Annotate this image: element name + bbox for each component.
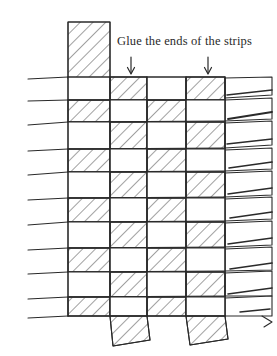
fringe-strip <box>225 271 272 296</box>
left-tail <box>28 297 68 299</box>
annotation-arrows <box>128 57 212 74</box>
left-tail <box>28 222 68 225</box>
fringe-strip <box>225 197 272 221</box>
left-tail <box>28 198 68 200</box>
left-tail <box>28 149 68 151</box>
fringe-strip <box>225 77 272 98</box>
fringe-strip <box>225 148 272 171</box>
left-tail <box>28 122 68 125</box>
right-fringe-group <box>225 77 272 327</box>
bottom-vertical-strips <box>110 316 228 346</box>
left-tails-group <box>28 77 68 318</box>
bottom-vertical-strip <box>110 316 150 346</box>
left-tail <box>28 272 68 274</box>
left-tail <box>28 100 68 101</box>
arrow-down-icon <box>128 57 135 74</box>
arrow-down-icon <box>205 57 212 74</box>
fringe-strip <box>225 221 272 247</box>
fringe-strip <box>225 121 272 148</box>
weaving-diagram-figure: Glue the ends of the strips <box>0 0 277 356</box>
fringe-strip <box>225 247 272 271</box>
fringe-strip <box>225 296 272 327</box>
left-tail <box>28 172 68 175</box>
fringe-strip <box>225 98 272 121</box>
bottom-vertical-strip <box>186 316 228 345</box>
left-tail <box>28 316 68 318</box>
weave-illustration <box>0 0 277 356</box>
left-tail <box>28 248 68 250</box>
top-vertical-strip <box>68 22 110 78</box>
left-tail <box>28 77 68 79</box>
fringe-strip <box>225 171 272 197</box>
